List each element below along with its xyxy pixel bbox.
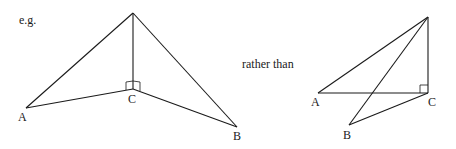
left-label-a: A bbox=[18, 111, 27, 123]
right-apex-to-a bbox=[318, 17, 428, 93]
right-label-a: A bbox=[311, 96, 320, 108]
left-apex-to-a bbox=[26, 13, 133, 108]
left-figure bbox=[26, 13, 237, 127]
left-c-to-b bbox=[133, 89, 237, 127]
left-a-to-c bbox=[26, 89, 133, 108]
left-label-c: C bbox=[128, 93, 136, 105]
right-label-c: C bbox=[428, 96, 436, 108]
caption-rather-than: rather than bbox=[242, 58, 294, 70]
diagram-canvas bbox=[0, 0, 456, 149]
right-figure bbox=[318, 17, 428, 125]
caption-eg: e.g. bbox=[19, 14, 36, 26]
right-right-angle-mark bbox=[420, 85, 428, 93]
left-label-b: B bbox=[233, 130, 241, 142]
right-label-b: B bbox=[343, 129, 351, 141]
left-apex-to-b bbox=[133, 13, 237, 127]
